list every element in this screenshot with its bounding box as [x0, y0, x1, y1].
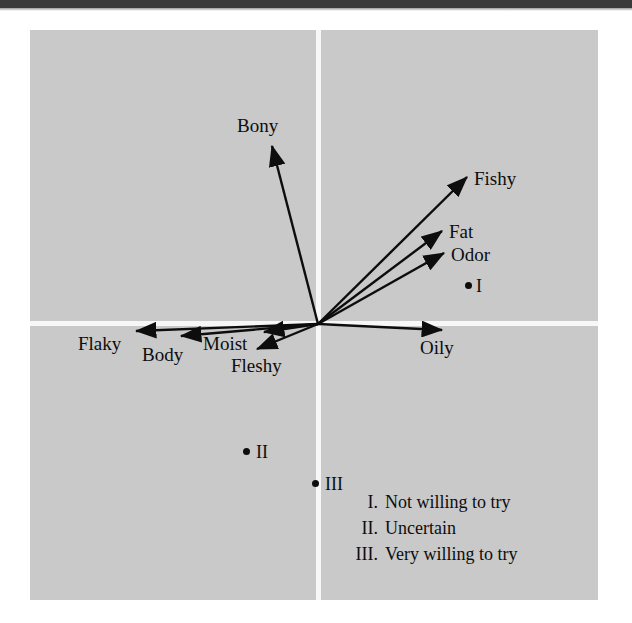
page-scan-edge-fade — [0, 8, 632, 11]
legend-numeral: II. — [348, 518, 378, 539]
data-point-label-i: I — [476, 277, 482, 295]
data-point-dot-ii — [243, 448, 250, 455]
data-point-dot-iii — [312, 480, 319, 487]
vector-label-fishy: Fishy — [474, 169, 516, 188]
legend-description: Not willing to try — [385, 492, 511, 513]
legend-row: II.Uncertain — [348, 518, 518, 539]
vector-label-fleshy: Fleshy — [231, 356, 282, 375]
legend-numeral: III. — [348, 544, 378, 565]
data-point-label-iii: III — [325, 475, 343, 493]
data-point-label-ii: II — [256, 443, 268, 461]
vector-label-fat: Fat — [449, 222, 473, 241]
figure-canvas: BonyFishyFatOdorOilyFlakyBodyMoistFleshy… — [0, 0, 632, 623]
vertical-axis-line — [316, 30, 321, 600]
vector-label-flaky: Flaky — [78, 334, 121, 353]
vector-label-oily: Oily — [420, 338, 454, 357]
vector-label-body: Body — [142, 345, 183, 364]
legend-numeral: I. — [348, 492, 378, 513]
horizontal-axis-line — [30, 321, 598, 326]
legend-row: III.Very willing to try — [348, 544, 518, 565]
legend-description: Uncertain — [385, 518, 456, 539]
data-point-dot-i — [465, 282, 472, 289]
legend-row: I.Not willing to try — [348, 492, 518, 513]
legend-description: Very willing to try — [385, 544, 518, 565]
vector-label-moist: Moist — [203, 334, 247, 353]
legend: I.Not willing to tryII.UncertainIII.Very… — [348, 492, 518, 570]
vector-label-bony: Bony — [237, 116, 278, 135]
vector-label-odor: Odor — [451, 245, 490, 264]
